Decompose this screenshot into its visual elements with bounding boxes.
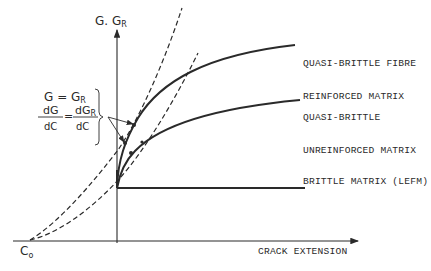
frac2-num-sub: R — [91, 109, 97, 118]
x-axis-label: CRACK EXTENSION — [258, 246, 347, 257]
frac2-den: dC — [76, 121, 89, 132]
cond-g: G — [44, 90, 53, 104]
cond-eq: = — [57, 90, 67, 104]
dashed-driving-force-2 — [30, 53, 198, 240]
frac1-num: dG — [43, 104, 59, 117]
y-axis-label: G. GR — [95, 14, 127, 29]
origin-label-sub: o — [28, 251, 33, 260]
y-axis-label-sub: R — [121, 20, 127, 29]
origin-label: Co — [20, 244, 33, 260]
label-brittle-matrix: BRITTLE MATRIX (LEFM) — [303, 176, 428, 187]
condition-line1: G = GR — [44, 90, 86, 105]
curve-unreinforced — [117, 100, 300, 188]
y-axis-label-text: G. G — [95, 14, 121, 28]
cond-gr: G — [71, 90, 80, 104]
label-unreinforced-line1: QUASI-BRITTLE — [303, 112, 416, 123]
label-unreinforced-line2: UNREINFORCED MATRIX — [303, 145, 416, 156]
tangent-point-4 — [129, 151, 133, 155]
frac2-num: dGR — [75, 104, 96, 118]
tangent-point-3 — [140, 140, 143, 143]
frac-eq: = — [64, 110, 73, 123]
label-fibre-line1: QUASI-BRITTLE FIBRE — [303, 58, 416, 69]
label-unreinforced: QUASI-BRITTLE UNREINFORCED MATRIX — [303, 90, 416, 167]
frac2-num-text: dG — [75, 104, 91, 117]
frac1-den: dC — [44, 121, 57, 132]
